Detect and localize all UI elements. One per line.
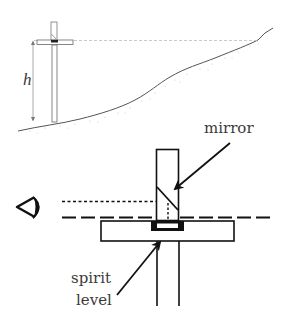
mirror-pointer-arrow (175, 143, 230, 189)
eye-icon (17, 196, 40, 219)
spirit-label-line1: spirit (71, 269, 111, 287)
spirit-level-bubble (157, 224, 178, 229)
spirit-level-small (51, 40, 58, 43)
height-label: h (23, 70, 32, 89)
spirit-label-line2: level (76, 291, 112, 309)
mirror-small (52, 34, 57, 39)
spirit-level-pointer-arrow (117, 242, 160, 295)
mirror-label: mirror (204, 119, 254, 137)
diagram-svg: h (0, 0, 286, 331)
mirror-surface (157, 187, 178, 210)
diagram-canvas: h (0, 0, 286, 331)
height-arrow-top-icon (31, 41, 35, 46)
pole (52, 45, 57, 122)
height-arrow-bottom-icon (31, 117, 35, 122)
top-view: h (18, 22, 273, 134)
detail-view: mirror spirit level (17, 119, 272, 309)
